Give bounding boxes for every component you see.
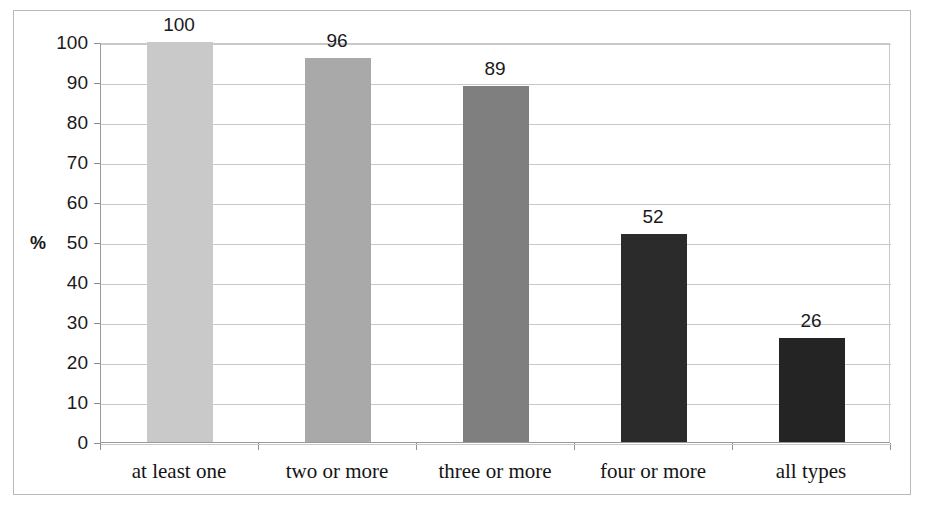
x-axis-category-label: two or more bbox=[257, 459, 417, 483]
y-axis-tick-label: 10 bbox=[32, 393, 88, 412]
bar-value-label: 52 bbox=[603, 207, 703, 226]
bar-value-label: 96 bbox=[287, 31, 387, 50]
y-axis-tick-label: 40 bbox=[32, 273, 88, 292]
y-axis-tick-label: 60 bbox=[32, 193, 88, 212]
bar bbox=[779, 338, 845, 442]
gridline bbox=[101, 44, 891, 45]
bar bbox=[147, 42, 213, 442]
plot-area bbox=[100, 43, 890, 443]
x-axis-category-label: at least one bbox=[99, 459, 259, 483]
y-axis-tick-label: 80 bbox=[32, 113, 88, 132]
y-axis-tick-label: 70 bbox=[32, 153, 88, 172]
gridline bbox=[101, 84, 891, 85]
y-axis-title: % bbox=[30, 233, 46, 254]
y-axis-tick-label: 20 bbox=[32, 353, 88, 372]
y-axis-tick-label: 0 bbox=[32, 433, 88, 452]
x-axis-category-label: all types bbox=[731, 459, 891, 483]
bar bbox=[305, 58, 371, 442]
y-axis-tick-label: 100 bbox=[32, 33, 88, 52]
bar-chart-figure: 10096895226 at least onetwo or morethree… bbox=[0, 0, 925, 512]
x-axis-category-label: four or more bbox=[573, 459, 733, 483]
y-axis-tick-label: 30 bbox=[32, 313, 88, 332]
gridline bbox=[101, 444, 891, 445]
bar-value-label: 100 bbox=[129, 15, 229, 34]
bar-value-label: 26 bbox=[761, 311, 861, 330]
bar bbox=[463, 86, 529, 442]
y-axis-tick-label: 90 bbox=[32, 73, 88, 92]
bar bbox=[621, 234, 687, 442]
x-axis-category-label: three or more bbox=[415, 459, 575, 483]
bar-value-label: 89 bbox=[445, 59, 545, 78]
